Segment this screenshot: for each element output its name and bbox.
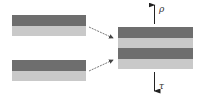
- light-layer: [118, 38, 193, 48]
- dark-layer: [118, 27, 193, 38]
- rho-label: ρ: [158, 4, 165, 14]
- arrow-top-to-stack: [89, 27, 113, 38]
- tau-label: τ: [159, 81, 165, 91]
- top-bilayer: [12, 15, 86, 36]
- stacking-diagram: ρ τ: [0, 0, 204, 96]
- light-layer: [12, 26, 86, 36]
- dark-layer: [12, 15, 86, 26]
- result-stack: [118, 27, 193, 69]
- arrow-bottom-to-stack: [89, 60, 113, 71]
- dark-layer: [12, 60, 86, 71]
- bottom-bilayer: [12, 60, 86, 81]
- dark-layer: [118, 48, 193, 59]
- light-layer: [12, 71, 86, 81]
- light-layer: [118, 59, 193, 69]
